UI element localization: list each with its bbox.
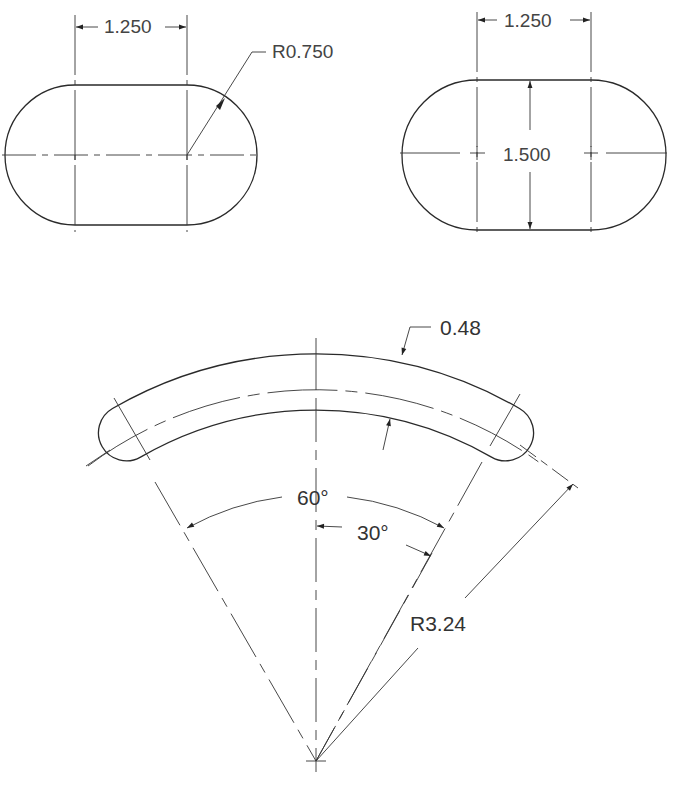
radius-leader-arrow xyxy=(216,98,225,110)
centerline-radius-label: R3.24 xyxy=(410,612,466,635)
width-leader-bottom xyxy=(383,419,390,450)
slot-width-label: 0.48 xyxy=(440,316,481,339)
radius-dim-line-lower xyxy=(316,648,418,761)
left-radial-line xyxy=(155,482,316,761)
left-end-radial-line-top xyxy=(114,398,150,460)
radius-leader xyxy=(187,52,266,155)
left-slot-view: 1.250 R0.750 xyxy=(2,15,333,232)
right-end-extension xyxy=(520,445,578,488)
half-angle-radial-line xyxy=(316,553,432,761)
end-radius-label: R0.750 xyxy=(272,41,333,62)
left-center-distance-label: 1.250 xyxy=(104,16,152,37)
right-end-radial-line-top xyxy=(490,394,520,446)
width-leader-top xyxy=(402,327,431,355)
left-end-extension xyxy=(86,450,110,466)
curved-slot-view: 60° 30° R3.24 0.48 xyxy=(86,316,578,772)
right-slot-view: 1.250 1.500 xyxy=(400,10,667,234)
included-angle-label: 60° xyxy=(297,486,329,509)
half-angle-label: 30° xyxy=(357,521,389,544)
angle-30-leader-right xyxy=(406,545,431,556)
radius-dim-line-upper xyxy=(465,484,573,598)
technical-drawing: 1.250 R0.750 1.250 1.500 xyxy=(0,0,693,808)
angle-30-leader-left xyxy=(317,526,342,527)
angle-60-arc-left xyxy=(187,497,282,528)
right-center-distance-label: 1.250 xyxy=(504,10,552,31)
height-label: 1.500 xyxy=(503,144,551,165)
